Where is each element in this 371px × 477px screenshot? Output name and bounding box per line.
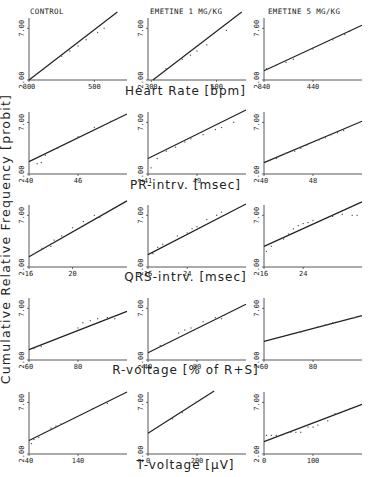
- data-point: [77, 136, 78, 137]
- data-point: [92, 408, 93, 409]
- x-tick-label: 200: [191, 457, 204, 465]
- data-point: [61, 235, 62, 236]
- data-point: [41, 248, 42, 249]
- x-tick-label: 40: [25, 177, 33, 185]
- data-point: [344, 34, 345, 35]
- data-point: [300, 432, 301, 433]
- data-point: [285, 62, 286, 63]
- data-point: [349, 31, 350, 32]
- data-point: [60, 423, 61, 424]
- data-point: [83, 221, 84, 222]
- y-tick-label: 7.00: [253, 394, 261, 411]
- data-point: [196, 226, 197, 227]
- data-point: [312, 220, 313, 221]
- data-point: [276, 65, 277, 66]
- data-point: [221, 318, 222, 319]
- data-point: [294, 151, 295, 152]
- data-point: [177, 235, 178, 236]
- data-point: [300, 148, 301, 149]
- data-point: [285, 433, 286, 434]
- data-point: [298, 225, 299, 226]
- y-tick-label: 2.00: [137, 446, 145, 463]
- x-tick-label: 24: [183, 270, 191, 278]
- data-point: [165, 68, 166, 69]
- data-point: [190, 327, 191, 328]
- data-point: [221, 127, 222, 128]
- x-tick-label: 140: [72, 457, 85, 465]
- panel-2-2: 2.007.001624: [253, 202, 362, 278]
- panel-3-0: 2.007.006080: [18, 298, 127, 371]
- data-point: [175, 147, 176, 148]
- plot-grid: 2.007.003005002.007.003005002.007.003404…: [0, 0, 371, 477]
- data-point: [276, 158, 277, 159]
- data-point: [343, 130, 344, 131]
- x-tick-label: 300: [145, 83, 158, 91]
- data-point: [319, 139, 320, 140]
- data-point: [325, 324, 326, 325]
- data-point: [94, 127, 95, 128]
- data-point: [342, 214, 343, 215]
- data-point: [293, 228, 294, 229]
- data-point: [327, 420, 328, 421]
- x-tick-label: 440: [307, 83, 320, 91]
- data-point: [104, 28, 105, 29]
- data-point: [50, 428, 51, 429]
- data-point: [77, 327, 78, 328]
- x-tick-label: 80: [74, 363, 82, 371]
- data-point: [215, 129, 216, 130]
- data-point: [196, 50, 197, 51]
- panel-0-1: 2.007.00300500: [137, 12, 246, 91]
- data-point: [270, 160, 271, 161]
- data-point: [43, 68, 44, 69]
- x-tick-label: 48: [309, 177, 317, 185]
- data-point: [271, 435, 272, 436]
- x-tick-label: 24: [299, 270, 307, 278]
- data-point: [332, 216, 333, 217]
- data-point: [152, 253, 153, 254]
- data-point: [182, 59, 183, 60]
- panel-3-2: 2.007.006080: [253, 298, 362, 371]
- fit-line: [264, 316, 362, 342]
- data-point: [162, 244, 163, 245]
- panel-0-0: 2.007.00300500: [18, 12, 127, 91]
- data-point: [110, 121, 111, 122]
- data-point: [41, 346, 42, 347]
- panel-1-2: 2.007.004048: [253, 112, 362, 185]
- y-tick-label: 7.00: [137, 207, 145, 224]
- data-point: [94, 215, 95, 216]
- data-point: [337, 132, 338, 133]
- data-point: [357, 215, 358, 216]
- fit-line: [153, 12, 242, 80]
- data-point: [206, 44, 207, 45]
- data-point: [288, 233, 289, 234]
- data-point: [300, 332, 301, 333]
- x-tick-label: 80: [309, 363, 317, 371]
- data-point: [184, 329, 185, 330]
- fit-line: [29, 311, 127, 349]
- data-point: [38, 437, 39, 438]
- data-point: [157, 247, 158, 248]
- data-point: [50, 246, 51, 247]
- x-tick-label: 16: [25, 270, 33, 278]
- data-point: [293, 59, 294, 60]
- x-tick-label: 0: [146, 457, 150, 465]
- panel-1-0: 2.007.004046: [18, 112, 127, 185]
- x-tick-label: 16: [144, 270, 152, 278]
- data-point: [69, 141, 70, 142]
- data-point: [107, 403, 108, 404]
- data-point: [226, 30, 227, 31]
- data-point: [172, 418, 173, 419]
- data-point: [192, 228, 193, 229]
- data-point: [72, 227, 73, 228]
- panel-2-0: 2.007.001620: [18, 201, 127, 278]
- data-point: [182, 412, 183, 413]
- data-point: [114, 318, 115, 319]
- y-tick-label: 7.00: [18, 114, 26, 131]
- x-tick-label: 40: [25, 457, 33, 465]
- data-point: [312, 48, 313, 49]
- data-point: [216, 215, 217, 216]
- data-point: [99, 217, 100, 218]
- fit-line: [29, 12, 117, 80]
- data-point: [187, 232, 188, 233]
- panel-3-1: 2.007.004080: [137, 298, 246, 371]
